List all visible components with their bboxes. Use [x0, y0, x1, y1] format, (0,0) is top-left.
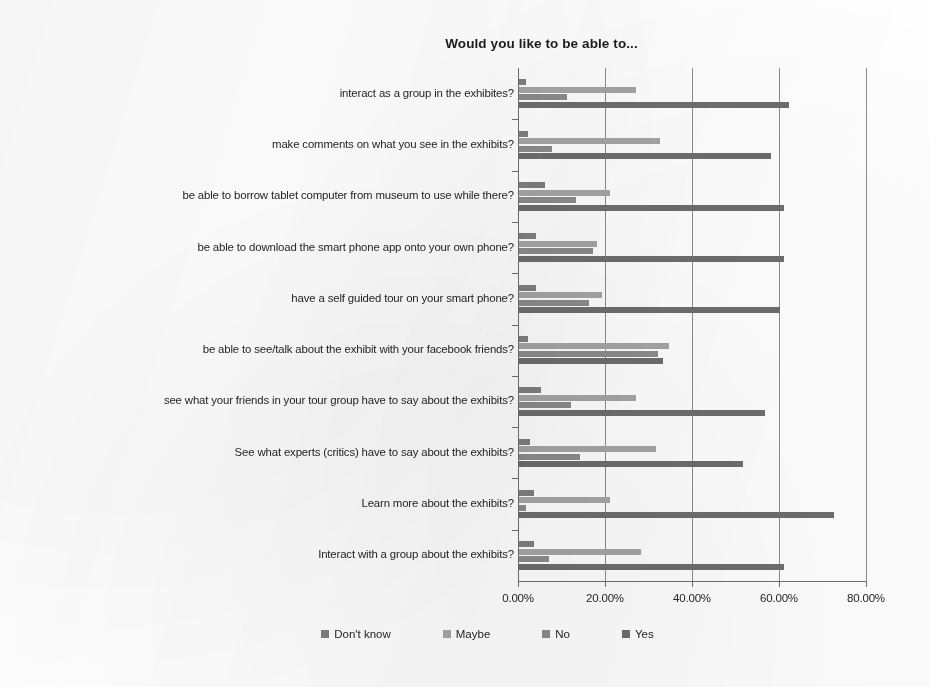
gridline-2000pct — [605, 68, 606, 581]
x-tick-label: 20.00% — [560, 592, 650, 604]
y-category-tick — [512, 273, 518, 274]
y-category-tick — [512, 530, 518, 531]
bar-no — [519, 197, 576, 203]
legend-swatch-icon — [622, 630, 630, 638]
bar-yes — [519, 358, 663, 364]
category-label: interact as a group in the exhibites? — [20, 87, 514, 100]
category-axis-labels: interact as a group in the exhibites?mak… — [20, 68, 514, 581]
bar-no — [519, 94, 567, 100]
bar-don-t-know — [519, 285, 536, 291]
legend-item[interactable]: Maybe — [443, 628, 491, 640]
bar-yes — [519, 307, 780, 313]
bar-maybe — [519, 292, 602, 298]
gridline-6000pct — [779, 68, 780, 581]
x-tick-mark — [692, 581, 693, 587]
category-label: see what your friends in your tour group… — [20, 394, 514, 407]
gridline-8000pct — [866, 68, 867, 581]
x-tick-mark — [518, 581, 519, 587]
chart-plot-wrapper: interact as a group in the exhibites?mak… — [0, 0, 929, 687]
x-tick-mark — [866, 581, 867, 587]
y-category-tick — [512, 376, 518, 377]
bar-no — [519, 454, 580, 460]
bar-don-t-know — [519, 182, 545, 188]
bar-don-t-know — [519, 541, 534, 547]
y-category-tick — [512, 171, 518, 172]
bar-don-t-know — [519, 439, 530, 445]
bar-maybe — [519, 87, 636, 93]
category-label: Learn more about the exhibits? — [20, 497, 514, 510]
bar-maybe — [519, 549, 641, 555]
category-label: be able to download the smart phone app … — [20, 241, 514, 254]
bar-no — [519, 300, 589, 306]
legend-swatch-icon — [542, 630, 550, 638]
category-label: be able to see/talk about the exhibit wi… — [20, 343, 514, 356]
bar-don-t-know — [519, 490, 534, 496]
y-category-tick — [512, 325, 518, 326]
bar-maybe — [519, 497, 610, 503]
category-label: See what experts (critics) have to say a… — [20, 446, 514, 459]
x-tick-label: 80.00% — [821, 592, 911, 604]
x-tick-label: 40.00% — [647, 592, 737, 604]
bar-yes — [519, 102, 789, 108]
bar-no — [519, 402, 571, 408]
bar-yes — [519, 410, 765, 416]
category-label: make comments on what you see in the exh… — [20, 138, 514, 151]
legend-item[interactable]: Don't know — [321, 628, 391, 640]
y-category-tick — [512, 222, 518, 223]
y-category-tick — [512, 427, 518, 428]
x-axis-tick-labels: 0.00%20.00%40.00%60.00%80.00% — [0, 592, 929, 610]
legend-item[interactable]: No — [542, 628, 570, 640]
bar-don-t-know — [519, 387, 541, 393]
y-category-tick — [512, 119, 518, 120]
category-label: Interact with a group about the exhibits… — [20, 548, 514, 561]
legend-label: No — [555, 628, 570, 640]
bar-yes — [519, 512, 834, 518]
x-tick-mark — [779, 581, 780, 587]
legend-item[interactable]: Yes — [622, 628, 654, 640]
legend-swatch-icon — [321, 630, 329, 638]
bar-no — [519, 146, 552, 152]
legend-label: Yes — [635, 628, 654, 640]
bar-yes — [519, 153, 771, 159]
bar-no — [519, 351, 658, 357]
gridline-4000pct — [692, 68, 693, 581]
bar-no — [519, 248, 593, 254]
category-label: be able to borrow tablet computer from m… — [20, 189, 514, 202]
bar-no — [519, 505, 526, 511]
bar-maybe — [519, 343, 669, 349]
bar-maybe — [519, 190, 610, 196]
x-tick-label: 60.00% — [734, 592, 824, 604]
bar-no — [519, 556, 549, 562]
bar-yes — [519, 256, 784, 262]
bar-don-t-know — [519, 79, 526, 85]
bar-maybe — [519, 446, 656, 452]
plot-area — [518, 68, 866, 581]
bar-maybe — [519, 395, 636, 401]
x-tick-mark — [605, 581, 606, 587]
bar-don-t-know — [519, 336, 528, 342]
bar-maybe — [519, 138, 660, 144]
legend-swatch-icon — [443, 630, 451, 638]
chart-legend: Don't knowMaybeNoYes — [0, 628, 929, 640]
bar-don-t-know — [519, 131, 528, 137]
legend-label: Don't know — [334, 628, 391, 640]
bar-yes — [519, 564, 784, 570]
legend-label: Maybe — [456, 628, 491, 640]
x-tick-label: 0.00% — [473, 592, 563, 604]
bar-maybe — [519, 241, 597, 247]
category-label: have a self guided tour on your smart ph… — [20, 292, 514, 305]
bar-yes — [519, 205, 784, 211]
bar-don-t-know — [519, 233, 536, 239]
bar-yes — [519, 461, 743, 467]
y-category-tick — [512, 478, 518, 479]
